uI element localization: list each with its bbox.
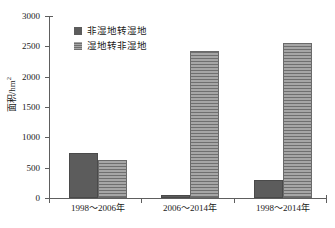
bar-chart: 面积/hm2 3000 2500 2000 1500 1000 500 0 xyxy=(0,0,335,228)
y-tick-1500: 1500 xyxy=(45,107,49,108)
y-tick-label-2000: 2000 xyxy=(22,72,40,81)
y-axis-title-text: 面积/hm xyxy=(7,80,17,112)
y-tick-label-0: 0 xyxy=(36,194,41,203)
legend-label-series1: 湿地转非湿地 xyxy=(87,41,147,52)
y-tick-label-2500: 2500 xyxy=(22,42,40,51)
y-tick-label-3000: 3000 xyxy=(22,12,40,21)
bar-group2-series1 xyxy=(190,51,219,198)
y-tick-3000: 3000 xyxy=(45,16,49,17)
legend-item-0: 非湿地转湿地 xyxy=(74,24,147,38)
bar-group3-series1 xyxy=(283,43,312,198)
x-tick-2 xyxy=(234,199,235,203)
y-axis-line xyxy=(49,16,50,199)
y-tick-2500: 2500 xyxy=(45,46,49,47)
y-tick-500: 500 xyxy=(45,168,49,169)
x-tick-start xyxy=(49,199,50,203)
legend-swatch-icon-series0 xyxy=(74,27,82,35)
y-axis-title-exponent: 2 xyxy=(5,77,12,80)
y-axis-title: 面积/hm2 xyxy=(4,67,17,123)
x-tick-1 xyxy=(141,199,142,203)
legend-label-series0: 非湿地转湿地 xyxy=(87,26,147,37)
legend-item-1: 湿地转非湿地 xyxy=(74,39,147,53)
x-axis-label-group1: 1998～2006年 xyxy=(71,203,125,213)
x-axis-label-group2: 2006～2014年 xyxy=(163,203,217,213)
y-tick-label-1000: 1000 xyxy=(22,133,40,142)
y-tick-label-1500: 1500 xyxy=(22,103,40,112)
bar-group2-series0 xyxy=(161,195,190,198)
bar-group1-series0 xyxy=(69,153,98,198)
legend-swatch-icon-series1 xyxy=(74,42,82,50)
y-tick-2000: 2000 xyxy=(45,77,49,78)
bar-group3-series0 xyxy=(254,180,283,198)
x-axis-line xyxy=(49,198,327,199)
x-axis-label-group3: 1998～2014年 xyxy=(256,203,310,213)
bar-group1-series1 xyxy=(98,160,127,198)
legend: 非湿地转湿地 湿地转非湿地 xyxy=(74,24,147,54)
y-tick-label-500: 500 xyxy=(27,163,41,172)
y-axis-top-cap xyxy=(49,16,53,17)
y-tick-1000: 1000 xyxy=(45,137,49,138)
x-tick-end xyxy=(326,199,327,203)
